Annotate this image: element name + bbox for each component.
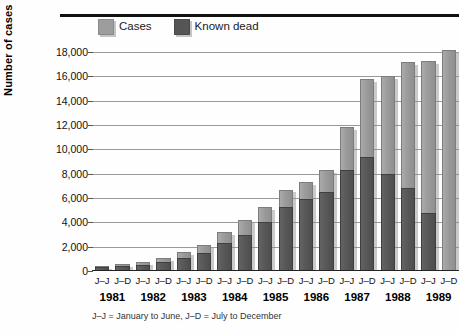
y-axis-tick-label: 6,000 bbox=[62, 192, 88, 204]
bar-slot bbox=[377, 52, 397, 271]
bar-segment-cases bbox=[360, 79, 374, 157]
bar-segment-cases bbox=[421, 61, 435, 213]
y-axis-tick-label: 0 bbox=[82, 265, 88, 277]
bar-slot bbox=[418, 52, 438, 271]
x-axis-half-label: J–D bbox=[112, 275, 132, 286]
bar-slot bbox=[92, 52, 112, 271]
stacked-bar[interactable] bbox=[360, 79, 374, 271]
stacked-bar[interactable] bbox=[421, 61, 435, 271]
x-axis-half-label: J–J bbox=[418, 275, 438, 286]
stacked-bar[interactable] bbox=[197, 245, 211, 271]
x-axis-year-label: 1987 bbox=[337, 291, 378, 303]
bar-segment-cases bbox=[381, 76, 395, 173]
bar-segment-cases bbox=[401, 62, 415, 189]
chart-figure: Cases Known dead Number of cases 18,0001… bbox=[0, 0, 459, 334]
x-axis-line bbox=[92, 270, 459, 271]
bar-segment-known-dead bbox=[217, 243, 231, 271]
x-axis-year-label: 1989 bbox=[418, 291, 459, 303]
x-axis-half-label: J–J bbox=[255, 275, 275, 286]
bar-segment-known-dead bbox=[360, 157, 374, 271]
bar-segment-cases bbox=[299, 182, 313, 199]
x-axis-half-label: J–D bbox=[357, 275, 377, 286]
stacked-bar[interactable] bbox=[299, 182, 313, 271]
y-axis-tick-label: 4,000 bbox=[62, 216, 88, 228]
x-axis-half-label: J–J bbox=[174, 275, 194, 286]
bar-segment-known-dead bbox=[197, 253, 211, 271]
x-axis-year-label: 1985 bbox=[255, 291, 296, 303]
x-axis-half-label: J–D bbox=[235, 275, 255, 286]
bar-segment-known-dead bbox=[177, 258, 191, 271]
bar-segment-known-dead bbox=[299, 199, 313, 271]
y-axis-tick-label: 8,000 bbox=[62, 168, 88, 180]
bar-slot bbox=[337, 52, 357, 271]
bar-slot bbox=[214, 52, 234, 271]
x-axis-half-label: J–D bbox=[439, 275, 459, 286]
x-axis-half-label: J–J bbox=[337, 275, 357, 286]
top-rule bbox=[60, 14, 459, 17]
legend-label-cases: Cases bbox=[119, 21, 152, 33]
bar-slot bbox=[398, 52, 418, 271]
stacked-bar[interactable] bbox=[279, 189, 293, 271]
x-axis-half-label: J–J bbox=[133, 275, 153, 286]
bar-slot bbox=[194, 52, 214, 271]
known-dead-swatch bbox=[174, 19, 190, 35]
bar-segment-known-dead bbox=[340, 170, 354, 271]
chart-footnote: J–J = January to June, J–D = July to Dec… bbox=[92, 311, 282, 321]
x-axis-year-label: 1984 bbox=[214, 291, 255, 303]
stacked-bar[interactable] bbox=[217, 232, 231, 271]
bar-segment-known-dead bbox=[279, 207, 293, 271]
plot-area: 18,00016,00014,00012,00010,0008,0006,000… bbox=[92, 52, 459, 271]
x-axis-half-label: J–D bbox=[153, 275, 173, 286]
stacked-bar[interactable] bbox=[177, 252, 191, 271]
bar-segment-cases bbox=[217, 232, 231, 243]
bar-segment-cases bbox=[279, 190, 293, 207]
x-axis-year-label: 1981 bbox=[92, 291, 133, 303]
chart-legend: Cases Known dead bbox=[98, 19, 259, 35]
x-axis-half-label: J–J bbox=[214, 275, 234, 286]
y-axis-tick-label: 12,000 bbox=[56, 119, 88, 131]
legend-entry-known-dead: Known dead bbox=[174, 19, 259, 35]
bar-slot bbox=[296, 52, 316, 271]
stacked-bar[interactable] bbox=[319, 170, 333, 271]
x-axis-year-label: 1986 bbox=[296, 291, 337, 303]
bar-slot bbox=[112, 52, 132, 271]
bar-segment-cases bbox=[340, 127, 354, 170]
stacked-bar[interactable] bbox=[238, 220, 252, 271]
y-axis-tick-label: 16,000 bbox=[56, 70, 88, 82]
x-axis-half-label: J–D bbox=[316, 275, 336, 286]
x-axis-half-label: J–J bbox=[296, 275, 316, 286]
stacked-bar[interactable] bbox=[442, 50, 456, 271]
x-axis-half-labels: J–JJ–DJ–JJ–DJ–JJ–DJ–JJ–DJ–JJ–DJ–JJ–DJ–JJ… bbox=[92, 275, 459, 286]
bar-slot bbox=[174, 52, 194, 271]
bar-slot bbox=[235, 52, 255, 271]
x-axis-year-label: 1988 bbox=[377, 291, 418, 303]
x-axis-half-label: J–D bbox=[194, 275, 214, 286]
y-axis-tick-mark bbox=[88, 271, 93, 272]
bar-segment-cases bbox=[442, 50, 456, 270]
bar-slot bbox=[439, 52, 459, 271]
stacked-bar[interactable] bbox=[401, 62, 415, 271]
y-axis-tick-label: 2,000 bbox=[62, 241, 88, 253]
x-axis-year-labels: 198119821983198419851986198719881989 bbox=[92, 291, 459, 303]
y-axis-title: Number of cases bbox=[2, 0, 14, 96]
bar-segment-cases bbox=[258, 207, 272, 223]
bar-slot bbox=[357, 52, 377, 271]
x-axis-year-label: 1982 bbox=[133, 291, 174, 303]
bar-segment-known-dead bbox=[381, 174, 395, 271]
x-axis-year-label: 1983 bbox=[174, 291, 215, 303]
y-axis-tick-label: 10,000 bbox=[56, 143, 88, 155]
stacked-bar[interactable] bbox=[381, 76, 395, 271]
bar-slot bbox=[316, 52, 336, 271]
stacked-bar[interactable] bbox=[340, 127, 354, 271]
bar-segment-known-dead bbox=[258, 222, 272, 271]
bar-segment-cases bbox=[319, 170, 333, 192]
bar-slot bbox=[133, 52, 153, 271]
bar-segment-known-dead bbox=[319, 192, 333, 271]
x-axis-half-label: J–D bbox=[398, 275, 418, 286]
y-axis-tick-label: 18,000 bbox=[56, 46, 88, 58]
stacked-bar[interactable] bbox=[258, 207, 272, 271]
bar-slot bbox=[276, 52, 296, 271]
x-axis-half-label: J–J bbox=[377, 275, 397, 286]
cases-swatch bbox=[98, 19, 114, 35]
bar-segment-known-dead bbox=[238, 235, 252, 272]
